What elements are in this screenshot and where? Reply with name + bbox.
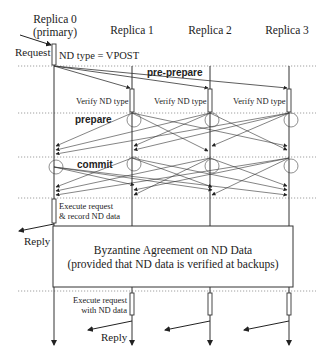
execute-nd-label-line1: Execute request: [73, 296, 127, 305]
replica-0-subtitle: (primary): [30, 27, 80, 39]
agreement-line-1: Byzantine Agreement on ND Data: [94, 243, 252, 257]
replica-0-title: Replica 0: [30, 14, 80, 26]
replica-1-title: Replica 1: [107, 25, 157, 37]
nd-type-label: ND type = VPOST: [59, 51, 139, 62]
verify-label-replica-3: Verify ND type: [233, 97, 285, 106]
backup-reply-label: Reply: [101, 332, 127, 343]
pre-prepare-label: pre-prepare: [147, 68, 203, 78]
agreement-box-text: Byzantine Agreement on ND Data (provided…: [53, 226, 293, 287]
backup-execute-activations: [130, 293, 291, 315]
primary-nd-type-activation: [52, 44, 56, 65]
verify-label-replica-1: Verify ND type: [76, 97, 128, 106]
verify-label-replica-2: Verify ND type: [154, 97, 206, 106]
request-label: Request: [15, 47, 50, 58]
primary-reply-label: Reply: [24, 236, 50, 247]
agreement-line-2: (provided that ND data is verified at ba…: [67, 257, 278, 271]
commit-label: commit: [77, 160, 113, 170]
execute-record-label-line1: Execute request: [59, 202, 113, 211]
prepare-label: prepare: [75, 115, 112, 125]
execute-nd-label-line2: with ND data: [73, 306, 127, 315]
execute-record-label-line2: & record ND data: [59, 212, 120, 221]
primary-reply-arrow: [19, 224, 54, 231]
replica-3-title: Replica 3: [262, 25, 312, 37]
replica-2-title: Replica 2: [185, 25, 235, 37]
primary-execute-activation: [52, 199, 56, 223]
backup-reply-arrows: [88, 321, 289, 330]
